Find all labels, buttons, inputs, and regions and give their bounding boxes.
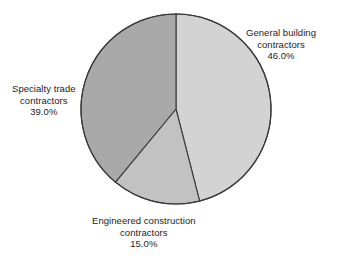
pie-label-specialty-trade-line1: Specialty trade — [12, 83, 76, 95]
pie-label-general-building-line2: contractors — [246, 39, 316, 51]
pie-label-engineered-construction-value: 15.0% — [92, 238, 196, 250]
pie-chart-figure: General building contractors 46.0% Speci… — [0, 0, 343, 261]
pie-label-engineered-construction: Engineered construction contractors 15.0… — [92, 215, 196, 250]
pie-label-engineered-construction-line1: Engineered construction — [92, 215, 196, 227]
pie-label-engineered-construction-line2: contractors — [92, 227, 196, 239]
pie-label-specialty-trade: Specialty trade contractors 39.0% — [12, 83, 76, 118]
pie-label-general-building-value: 46.0% — [246, 50, 316, 62]
pie-label-specialty-trade-value: 39.0% — [12, 106, 76, 118]
pie-label-general-building-line1: General building — [246, 27, 316, 39]
pie-label-specialty-trade-line2: contractors — [12, 95, 76, 107]
pie-label-general-building: General building contractors 46.0% — [246, 27, 316, 62]
